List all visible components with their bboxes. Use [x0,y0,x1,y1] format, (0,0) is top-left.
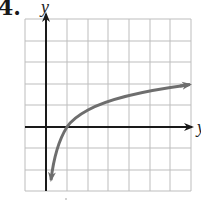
graph: y y [0,0,201,208]
log-curve [51,85,188,180]
stray-dot [65,198,67,200]
grid [25,19,191,191]
y-axis-label: y [39,0,49,17]
x-axis-label: y [195,117,201,137]
